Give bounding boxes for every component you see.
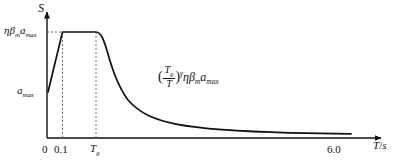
decay-branch-formula: (TgT)γηβmamax (158, 66, 219, 90)
y-tick-label-amax: amax (17, 85, 34, 99)
x-tick-label-zero: 0 (42, 144, 48, 155)
response-spectrum-figure: S T/s ηβmamax amax 0 0.1 Tg 6.0 (TgT)γηβ… (0, 0, 410, 168)
x-axis-label: T/s (373, 140, 386, 151)
y-axis-label: S (38, 2, 44, 14)
y-tick-label-plateau: ηβmamax (4, 25, 37, 39)
x-tick-label-tg: Tg (90, 143, 100, 157)
x-tick-label-point-one: 0.1 (54, 144, 68, 155)
x-tick-label-six: 6.0 (327, 144, 341, 155)
